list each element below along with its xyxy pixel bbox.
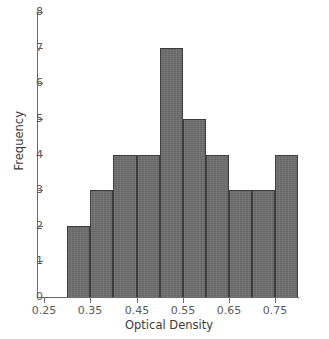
histogram-bar bbox=[275, 155, 298, 298]
histogram-bar bbox=[113, 155, 136, 298]
histogram-bar bbox=[229, 190, 252, 297]
y-axis-title: Frequency bbox=[14, 66, 26, 216]
histogram-bar bbox=[160, 48, 183, 297]
histogram-bar bbox=[183, 119, 206, 297]
histogram-bar bbox=[90, 190, 113, 297]
histogram-bar bbox=[206, 155, 229, 298]
histogram-bar bbox=[67, 226, 90, 297]
histogram-bars bbox=[0, 0, 329, 339]
histogram-bar bbox=[252, 190, 275, 297]
x-axis-title: Optical Density bbox=[38, 320, 300, 332]
histogram-bar bbox=[137, 155, 160, 298]
histogram-chart: 012345678 0.250.350.450.550.650.75 Optic… bbox=[0, 0, 329, 339]
